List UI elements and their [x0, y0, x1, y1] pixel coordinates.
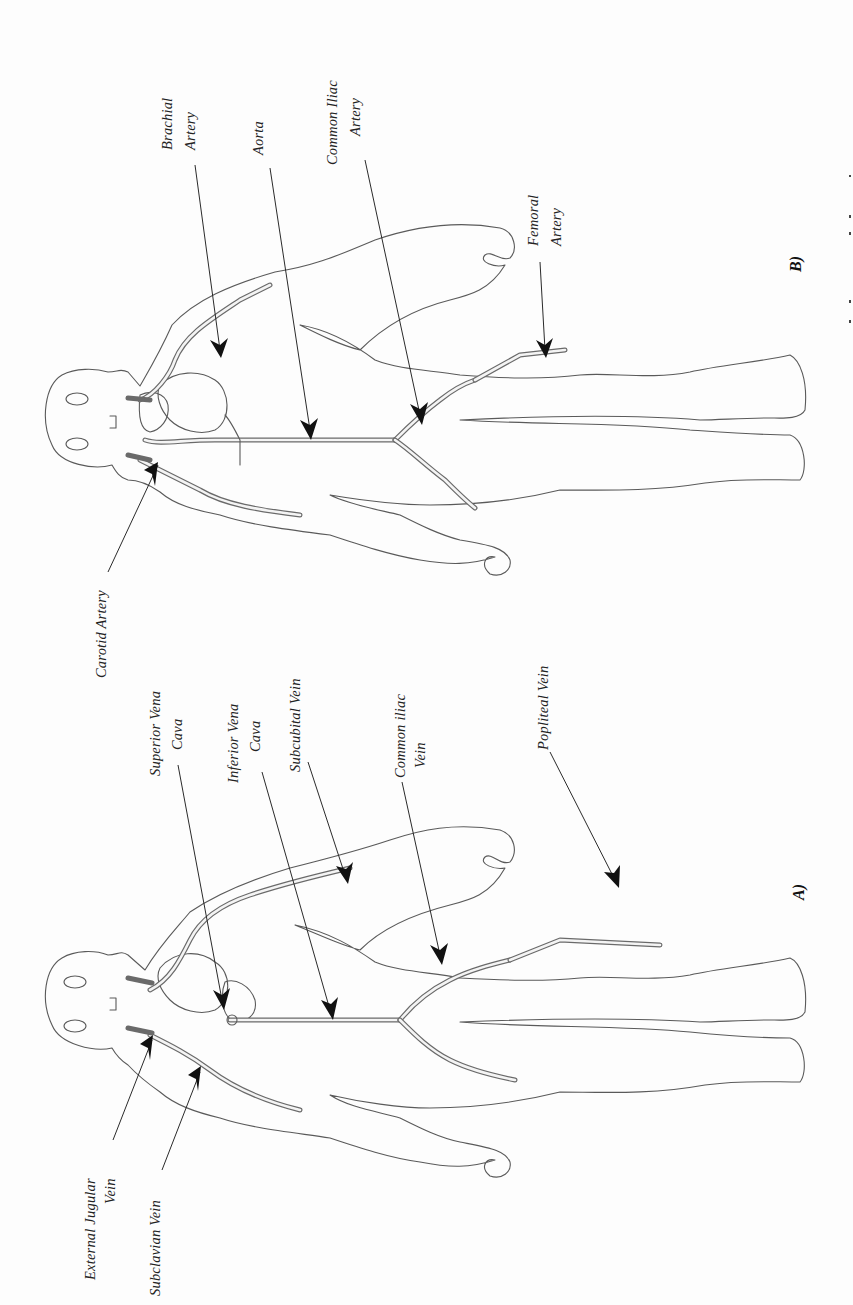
- label-common-iliac-artery-line1: Common Iliac: [324, 80, 340, 165]
- figure-a-mouth: [110, 998, 116, 1010]
- label-common-iliac-vein-line1: Common iliac: [392, 693, 408, 778]
- arrow-superior-vena-cava-icon: [213, 988, 230, 1010]
- panel-label-a: A): [790, 884, 808, 901]
- figure-b-arteries: [128, 285, 565, 515]
- label-aorta: Aorta: [250, 121, 266, 156]
- figure-b-mouth: [110, 416, 116, 428]
- label-common-iliac-vein-line2: Vein: [412, 742, 428, 768]
- label-external-jugular-line2: Vein: [102, 1178, 118, 1204]
- label-subclavian-vein: Subclavian Vein: [147, 1200, 163, 1296]
- figure-a-eye: [64, 1020, 86, 1032]
- label-femoral-artery-line2: Artery: [548, 207, 564, 247]
- figure-b-labels: Carotid Artery Brachial Artery Aorta Com…: [93, 80, 805, 678]
- cut-off-caption-marks: [849, 175, 851, 323]
- label-carotid-artery: Carotid Artery: [93, 590, 109, 678]
- label-brachial-artery-line1: Brachial: [159, 98, 175, 150]
- figure-a-heart: [158, 954, 228, 1013]
- label-inferior-vena-cava-line1: Inferior Vena: [225, 703, 241, 784]
- figure-b: Carotid Artery Brachial Artery Aorta Com…: [45, 80, 805, 678]
- label-common-iliac-artery-line2: Artery: [347, 97, 363, 137]
- label-inferior-vena-cava-line2: Cava: [247, 721, 263, 752]
- figure-a: External Jugular Vein Subclavian Vein Su…: [45, 665, 808, 1296]
- figure-b-heart: [158, 373, 227, 432]
- panel-label-b: B): [787, 256, 805, 273]
- label-popliteal-vein: Popliteal Vein: [535, 665, 551, 751]
- figure-a-eye: [64, 976, 86, 988]
- figure-a-leaders: [113, 752, 620, 1170]
- figure-a-veins: [128, 868, 660, 1110]
- document-page: Carotid Artery Brachial Artery Aorta Com…: [0, 0, 853, 1305]
- figure-b-eye: [66, 438, 88, 450]
- label-external-jugular-line1: External Jugular: [82, 1178, 98, 1281]
- arrow-common-iliac-vein-icon: [430, 943, 448, 965]
- figure-a-body-outline: [45, 827, 805, 1177]
- label-femoral-artery-line1: Femoral: [525, 195, 541, 247]
- arrow-external-jugular-icon: [140, 1035, 153, 1060]
- arrow-popliteal-icon: [604, 865, 620, 888]
- label-superior-vena-cava-line2: Cava: [169, 719, 185, 750]
- arrow-inferior-vena-cava-icon: [321, 997, 338, 1020]
- label-superior-vena-cava-line1: Superior Vena: [147, 691, 163, 776]
- label-brachial-artery-line2: Artery: [182, 111, 198, 151]
- label-subcubital-vein: Subcubital Vein: [287, 678, 303, 772]
- figure-b-eye: [66, 393, 88, 405]
- anatomy-diagram: Carotid Artery Brachial Artery Aorta Com…: [0, 0, 853, 1305]
- figure-b-body-outline: [45, 225, 805, 575]
